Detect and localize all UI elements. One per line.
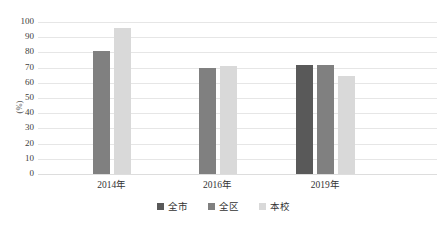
y-tick-label: 10 [8,154,34,163]
bar-全区-2019年 [317,65,334,174]
y-tick-label: 50 [8,93,34,102]
bar-本校-2014年 [114,28,131,174]
legend-swatch-icon [259,203,266,210]
legend-label: 本校 [270,199,290,213]
legend-label: 全区 [219,199,239,213]
x-tick-label: 2019年 [285,177,365,191]
gridline [38,37,437,38]
gridline [38,22,437,23]
bar-本校-2019年 [338,76,355,174]
legend-item-本校[interactable]: 本校 [259,199,290,213]
y-tick-label: 40 [8,108,34,117]
y-tick-label: 70 [8,63,34,72]
bar-全市-2019年 [296,65,313,174]
legend-swatch-icon [157,203,164,210]
y-tick-label: 60 [8,78,34,87]
gridline [38,174,437,175]
y-tick-label: 80 [8,47,34,56]
bar-全区-2016年 [199,68,216,174]
legend-item-全区[interactable]: 全区 [208,199,239,213]
bar-chart: (%) 0102030405060708090100 2014年2016年201… [0,0,446,228]
x-tick-label: 2014年 [72,177,152,191]
y-tick-label: 0 [8,169,34,178]
bar-本校-2016年 [220,66,237,174]
x-tick-label: 2016年 [178,177,258,191]
chart-legend: 全市全区本校 [0,198,446,214]
plot-area [38,22,437,174]
legend-swatch-icon [208,203,215,210]
y-tick-label: 30 [8,123,34,132]
y-tick-label: 20 [8,139,34,148]
legend-label: 全市 [168,199,188,213]
bar-全区-2014年 [93,51,110,174]
y-tick-label: 100 [8,17,34,26]
legend-item-全市[interactable]: 全市 [157,199,188,213]
y-tick-label: 90 [8,32,34,41]
